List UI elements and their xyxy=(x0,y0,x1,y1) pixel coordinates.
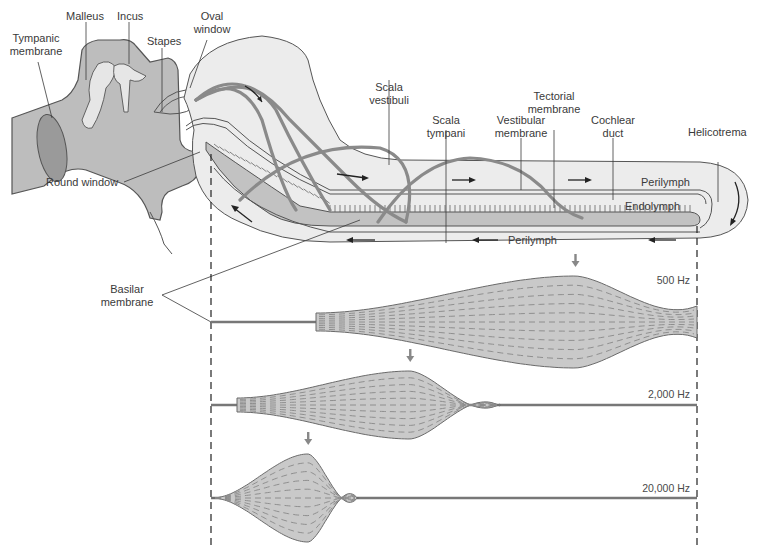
frequency-label: 500 Hz xyxy=(657,274,690,286)
label-scala-vestibuli: Scalavestibuli xyxy=(369,81,409,106)
label-cochlear-duct: Cochlearduct xyxy=(591,114,635,139)
cochlea-diagram: 500 Hz2,000 Hz20,000 Hz Tympanicmembrane… xyxy=(0,0,765,559)
label-round-window: Round window xyxy=(46,176,118,188)
label-vestibular-membrane: Vestibularmembrane xyxy=(495,114,548,139)
frequency-panels: 500 Hz2,000 Hz20,000 Hz xyxy=(211,254,697,542)
frequency-panel: 2,000 Hz xyxy=(211,349,697,439)
peak-arrow-icon xyxy=(572,254,580,267)
label-tectorial-membrane: Tectorialmembrane xyxy=(528,90,581,115)
frequency-label: 20,000 Hz xyxy=(642,482,690,494)
label-incus: Incus xyxy=(117,10,144,22)
label-malleus: Malleus xyxy=(66,10,104,22)
label-oval-window: Ovalwindow xyxy=(193,10,231,35)
label-endolymph: Endolymph xyxy=(625,200,680,212)
frequency-label: 2,000 Hz xyxy=(648,388,690,400)
peak-arrow-icon xyxy=(406,349,414,362)
peak-arrow-icon xyxy=(304,432,312,445)
label-basilar-membrane: Basilarmembrane xyxy=(101,283,154,308)
label-perilymph-lower: Perilymph xyxy=(508,234,557,246)
frequency-panel: 20,000 Hz xyxy=(211,432,697,542)
frequency-panel: 500 Hz xyxy=(211,254,697,368)
label-scala-tympani: Scalatympani xyxy=(427,114,466,139)
label-stapes: Stapes xyxy=(147,35,182,47)
label-helicotrema: Helicotrema xyxy=(688,126,748,138)
middle-ear xyxy=(12,40,210,254)
label-tympanic-membrane: Tympanicmembrane xyxy=(10,32,63,57)
label-perilymph-upper: Perilymph xyxy=(641,176,690,188)
